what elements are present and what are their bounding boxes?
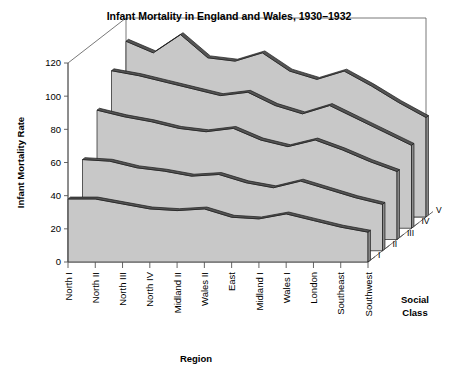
chart-container: 020406080100120 North INorth IINorth III…: [0, 0, 458, 388]
z-axis-tick-label: II: [393, 239, 398, 249]
y-axis-tick-label: 0: [56, 256, 61, 267]
y-axis-tick-label: 120: [45, 57, 61, 68]
x-axis-tick-label: North II: [90, 272, 101, 303]
z-axis-tick-label: III: [407, 228, 414, 238]
x-axis-label: Region: [180, 353, 212, 364]
z-axis-label-line1: Social: [401, 294, 429, 305]
x-axis-tick-label: Wales I: [281, 272, 292, 303]
x-axis-tick-label: London: [308, 272, 319, 304]
y-axis-tick-label: 100: [45, 91, 61, 102]
z-axis-tick-label: IV: [422, 216, 430, 226]
z-axis-tick-label: I: [378, 250, 380, 260]
series-end-cap: [426, 116, 428, 217]
x-axis-tick-label: North IV: [144, 271, 155, 307]
x-axis-tick-label: Wales II: [199, 272, 210, 306]
infant-mortality-3d-area-chart: 020406080100120 North INorth IINorth III…: [0, 0, 458, 388]
chart-title: Infant Mortality in England and Wales, 1…: [107, 10, 352, 22]
series-end-cap: [412, 143, 414, 228]
series-end-cap: [397, 170, 399, 240]
x-axis-tick-label: Midland I: [254, 272, 265, 311]
y-axis-label: Infant Mortality Rate: [15, 117, 26, 208]
x-axis-tick-label: East: [226, 272, 237, 291]
series-end-cap: [383, 202, 385, 250]
y-axis-tick-label: 20: [50, 223, 61, 234]
x-axis-tick-label: North III: [117, 272, 128, 306]
x-axis-tick-label: Southwest: [363, 272, 374, 317]
y-axis-tick-label: 40: [50, 190, 61, 201]
x-axis-tick-label: North I: [63, 272, 74, 301]
x-axis-tick-label: Midland II: [172, 272, 183, 313]
z-axis-label-line2: Class: [402, 307, 427, 318]
y-axis-tick-label: 60: [50, 157, 61, 168]
x-axis-tick-label: Southeast: [335, 272, 346, 315]
y-axis-tick-label: 80: [50, 124, 61, 135]
z-axis-tick-label: V: [436, 205, 442, 215]
series-end-cap: [368, 230, 370, 262]
